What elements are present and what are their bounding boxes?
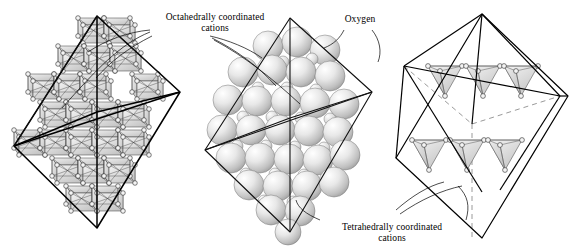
oxygen-sphere-pack: [207, 27, 360, 245]
structure-drawing: [0, 0, 582, 251]
crystal-structure-figure: Octahedrally coordinated cations Oxygen …: [0, 0, 582, 251]
panel-left-octahedral: [12, 16, 180, 228]
label-octahedrally-coordinated-cations: Octahedrally coordinated cations: [150, 12, 280, 34]
panel-right-tetrahedral: [396, 14, 568, 238]
label-tetrahedrally-coordinated-cations: Tetrahedrally coordinated cations: [318, 222, 466, 244]
panel-middle-oxygen: [205, 18, 372, 245]
unit-cell-outline-right: [396, 14, 568, 238]
label-oxygen: Oxygen: [330, 14, 390, 25]
